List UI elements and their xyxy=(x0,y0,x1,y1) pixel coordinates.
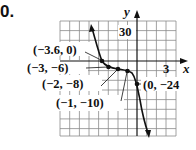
label-point-neg3-6-0: (−3.6, 0) xyxy=(33,43,77,57)
y-tick-label: 30 xyxy=(119,25,132,39)
y-axis-arrow-icon xyxy=(134,10,140,18)
x-tick-label: 3 xyxy=(163,62,169,76)
polynomial-graph: (−3.6, 0) (−3, −6) (−2, −8) (−1, −10) (0… xyxy=(0,0,196,150)
curve-arrow-bottom-icon xyxy=(145,130,151,138)
curve-arrow-top-icon xyxy=(89,24,95,32)
label-point-neg3-neg6: (−3, −6) xyxy=(27,61,68,75)
y-axis-label: y xyxy=(122,4,130,19)
label-point-neg2-neg8: (−2, −8) xyxy=(42,77,83,91)
x-axis-label: x xyxy=(182,61,190,76)
label-point-0-neg24: (0, −24 xyxy=(143,78,180,92)
label-point-neg1-neg10: (−1, −10) xyxy=(56,96,104,110)
point-neg1 xyxy=(125,69,130,74)
data-points xyxy=(100,59,140,87)
